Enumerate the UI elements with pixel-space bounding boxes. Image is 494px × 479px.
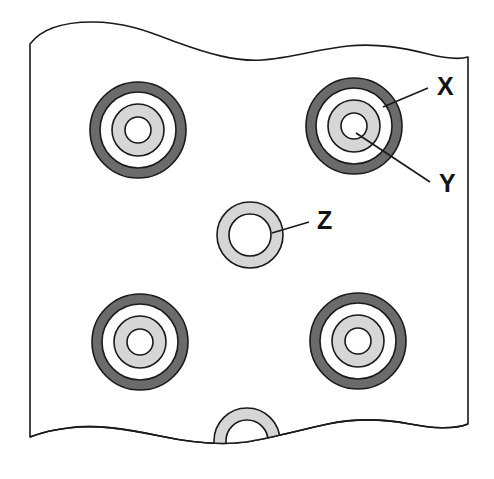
hole-bottom-edge <box>214 408 280 474</box>
counterbore-bore <box>125 117 151 143</box>
hole-bottom-right <box>310 293 406 389</box>
washer-bore <box>229 214 271 256</box>
washer-bore <box>226 420 268 462</box>
counterbore-bore <box>341 113 367 139</box>
hole-bottom-left <box>92 294 188 390</box>
callout-label-z: Z <box>317 206 332 234</box>
diagram-root: X Y Z <box>0 0 494 479</box>
hole-top-left <box>90 82 186 178</box>
hole-top-right <box>306 78 402 174</box>
callout-label-x: X <box>437 72 454 100</box>
callout-label-y: Y <box>439 169 456 197</box>
plate-diagram-svg: X Y Z <box>0 0 494 479</box>
hole-center <box>217 202 283 268</box>
counterbore-bore <box>127 329 153 355</box>
counterbore-bore <box>345 328 371 354</box>
